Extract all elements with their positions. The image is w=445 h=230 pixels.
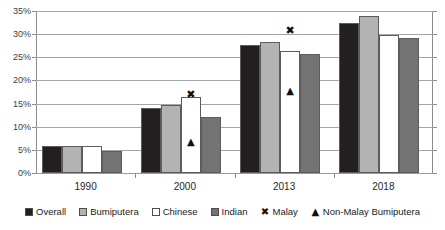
marker-malay: ✖	[186, 89, 195, 100]
legend-item-label: Bumiputera	[90, 206, 139, 217]
marker-malay: ✖	[286, 24, 295, 35]
x-axis-separator	[334, 173, 335, 178]
bar-overall	[339, 23, 359, 173]
y-axis-label: 35%	[13, 6, 31, 16]
x-axis-label-2000: 2000	[174, 181, 196, 192]
legend-swatch-icon	[211, 208, 219, 216]
bar-indian	[102, 151, 122, 173]
bar-overall	[141, 108, 161, 173]
right-axis-tick	[433, 57, 437, 58]
right-axis-tick	[433, 150, 437, 151]
right-axis-tick	[433, 173, 437, 174]
bar-group: ✖▲2000	[135, 11, 234, 173]
right-axis-tick	[433, 104, 437, 105]
bar-overall	[42, 146, 62, 173]
bar-indian	[399, 38, 419, 173]
y-axis-label: 25%	[13, 52, 31, 62]
plot-area: 0%5%10%15%20%25%30%35%1990✖▲2000✖▲201320…	[36, 11, 433, 173]
legend-triangle-marker-icon: ▲	[311, 207, 320, 216]
x-axis-separator	[135, 173, 136, 178]
y-axis-label: 10%	[13, 122, 31, 132]
bar-indian	[300, 54, 320, 173]
right-axis-tick	[433, 34, 437, 35]
y-axis-label: 30%	[13, 29, 31, 39]
bar-group: 2018	[334, 11, 433, 173]
legend-item-bumiputera[interactable]: Bumiputera	[79, 206, 139, 217]
y-axis-label: 15%	[13, 99, 31, 109]
legend-swatch-icon	[79, 208, 87, 216]
x-axis-label-1990: 1990	[75, 181, 97, 192]
legend-item-chinese[interactable]: Chinese	[152, 206, 198, 217]
marker-non-malay-bumiputera: ▲	[286, 86, 294, 96]
legend-item-non-malay-bumiputera[interactable]: ▲Non-Malay Bumiputera	[311, 206, 420, 217]
bar-chinese	[280, 51, 300, 173]
legend-item-label: Chinese	[163, 206, 198, 217]
legend-item-label: Non-Malay Bumiputera	[323, 206, 420, 217]
legend-item-label: Indian	[222, 206, 248, 217]
right-axis-tick	[433, 11, 437, 12]
bar-bumiputera	[359, 16, 379, 173]
chart-container: 0%5%10%15%20%25%30%35%1990✖▲2000✖▲201320…	[0, 0, 445, 230]
legend-item-label: Overall	[36, 206, 66, 217]
legend-item-malay[interactable]: ✖Malay	[260, 206, 297, 217]
x-axis-label-2013: 2013	[273, 181, 295, 192]
legend-item-overall[interactable]: Overall	[25, 206, 66, 217]
bar-chinese	[379, 35, 399, 173]
bar-group: 1990	[36, 11, 135, 173]
bar-bumiputera	[161, 105, 181, 174]
legend-item-indian[interactable]: Indian	[211, 206, 248, 217]
legend-swatch-icon	[152, 208, 160, 216]
y-axis-label: 5%	[18, 145, 31, 155]
bar-chinese	[82, 146, 102, 173]
plot-area-wrapper: 0%5%10%15%20%25%30%35%1990✖▲2000✖▲201320…	[36, 11, 433, 173]
chart-legend: OverallBumiputeraChineseIndian✖Malay▲Non…	[0, 206, 445, 217]
legend-item-label: Malay	[272, 206, 297, 217]
legend-x-marker-icon: ✖	[260, 207, 269, 216]
bar-indian	[201, 117, 221, 173]
marker-non-malay-bumiputera: ▲	[187, 137, 195, 147]
bar-group: ✖▲2013	[235, 11, 334, 173]
right-axis-tick	[433, 80, 437, 81]
y-axis-label: 0%	[18, 168, 31, 178]
y-axis-tick	[32, 173, 36, 174]
bar-bumiputera	[260, 42, 280, 173]
bar-overall	[240, 45, 260, 173]
x-axis-separator	[235, 173, 236, 178]
right-axis-tick	[433, 127, 437, 128]
x-axis-label-2018: 2018	[372, 181, 394, 192]
legend-swatch-icon	[25, 208, 33, 216]
bar-bumiputera	[62, 146, 82, 173]
y-axis-label: 20%	[13, 75, 31, 85]
